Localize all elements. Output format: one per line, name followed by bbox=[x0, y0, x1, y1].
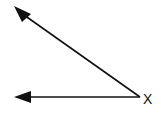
angle-diagram: X bbox=[0, 0, 161, 114]
vertex-label: X bbox=[143, 91, 153, 107]
